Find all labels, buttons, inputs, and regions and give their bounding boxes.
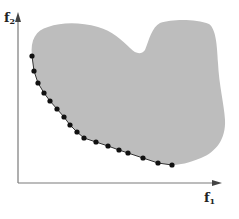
- pareto-point: [54, 106, 59, 111]
- pareto-point: [105, 143, 110, 148]
- pareto-figure: f2 f1: [0, 0, 239, 219]
- pareto-point: [61, 114, 66, 119]
- pareto-point: [125, 150, 130, 155]
- x-axis-label: f1: [204, 191, 215, 205]
- y-axis-label-subscript: 2: [10, 16, 16, 26]
- pareto-point: [155, 160, 160, 165]
- pareto-point: [67, 122, 72, 127]
- pareto-point: [74, 129, 79, 134]
- x-axis-label-subscript: 1: [210, 196, 216, 206]
- pareto-point: [41, 90, 46, 95]
- pareto-point: [31, 68, 36, 73]
- pareto-point: [81, 135, 86, 140]
- pareto-point: [140, 155, 145, 160]
- y-axis-arrowhead-icon: [15, 12, 21, 22]
- y-axis-label: f2: [4, 11, 15, 25]
- pareto-point: [116, 147, 121, 152]
- x-axis-arrowhead-icon: [212, 180, 222, 186]
- feasible-region: [32, 20, 225, 165]
- pareto-point: [47, 98, 52, 103]
- pareto-point: [169, 162, 174, 167]
- pareto-point: [35, 80, 40, 85]
- pareto-point: [29, 53, 34, 58]
- figure-canvas: [0, 0, 239, 219]
- pareto-point: [93, 139, 98, 144]
